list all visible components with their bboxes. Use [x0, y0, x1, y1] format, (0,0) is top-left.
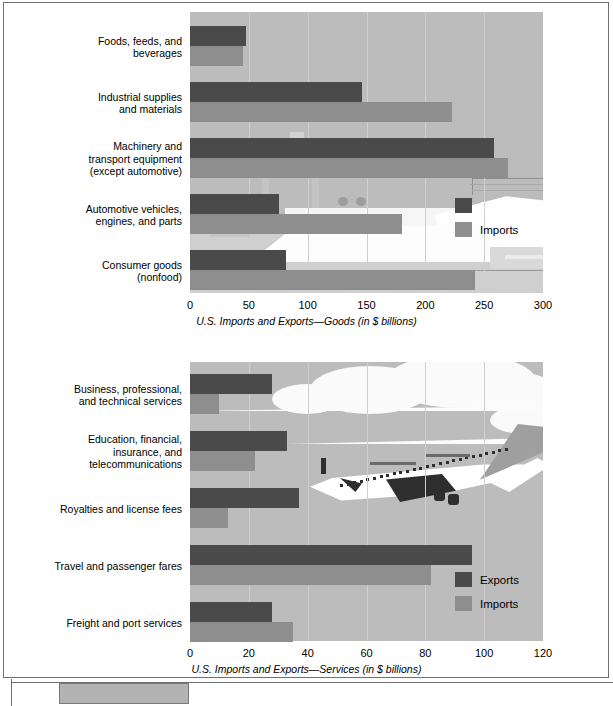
bar-imports-2: [190, 508, 228, 528]
contrail-2: [288, 438, 543, 444]
category-label: Machinery andtransport equipment(except …: [12, 140, 182, 178]
nose-shadow: [340, 478, 362, 492]
engine-2: [448, 494, 459, 505]
bar-exports-1: [190, 431, 287, 451]
cabin-window: [432, 464, 435, 467]
cabin-window: [399, 471, 402, 474]
x-tick-label: 40: [288, 647, 328, 659]
tail-fin: [480, 424, 543, 482]
x-tick-label: 80: [405, 647, 445, 659]
x-tick-label: 120: [523, 647, 563, 659]
cabin-window: [360, 480, 363, 483]
wake-1: [490, 247, 543, 269]
porthole-1: [338, 197, 348, 206]
legend-swatch-exports: [455, 572, 472, 587]
legend-item-exports: Exports: [455, 198, 519, 213]
cloud-3: [468, 372, 543, 412]
cabin-window: [439, 462, 442, 465]
cabin-window: [498, 449, 501, 452]
category-label: Freight and port services: [12, 617, 182, 630]
bar-exports-2: [190, 138, 494, 158]
category-label: Foods, feeds, andbeverages: [12, 35, 182, 60]
legend-swatch-imports: [455, 596, 472, 611]
cabin-window: [465, 456, 468, 459]
bar-imports-0: [190, 394, 219, 414]
legend-label-exports: Exports: [480, 200, 519, 212]
bar-exports-1: [190, 82, 362, 102]
livery-stripe-2: [426, 454, 470, 457]
cloud-1: [310, 366, 430, 414]
page-divider-vertical: [11, 679, 12, 706]
fuselage: [310, 462, 532, 502]
category-label: Consumer goods(nonfood): [12, 259, 182, 284]
bar-imports-4: [190, 622, 293, 642]
axis-title-goods: U.S. Imports and Exports—Goods (in $ bil…: [0, 315, 613, 327]
legend-item-imports: Imports: [455, 596, 519, 611]
bar-exports-3: [190, 545, 472, 565]
axis-title-services: U.S. Imports and Exports—Services (in $ …: [0, 663, 613, 675]
cabin-window: [406, 470, 409, 473]
legend-label-imports: Imports: [480, 224, 518, 236]
cabin-window: [459, 458, 462, 461]
cabin-window: [353, 481, 356, 484]
engine-1: [434, 490, 445, 501]
wake-2: [505, 255, 543, 259]
legend-swatch-imports: [455, 222, 472, 237]
livery-stripe-1: [370, 462, 416, 465]
x-tick-label: 100: [288, 299, 328, 311]
x-tick-label: 0: [170, 647, 210, 659]
category-label: Automotive vehicles,engines, and parts: [12, 203, 182, 228]
gridline: [367, 362, 368, 641]
bridge-rail: [472, 178, 543, 195]
cabin-window: [419, 467, 422, 470]
engine-pylon: [396, 488, 420, 495]
bar-imports-2: [190, 158, 508, 178]
cabin-window: [472, 455, 475, 458]
cabin-window: [373, 477, 376, 480]
cabin-window: [492, 451, 495, 454]
bar-imports-0: [190, 46, 243, 66]
cabin-window: [386, 474, 389, 477]
cabin-window: [380, 475, 383, 478]
cabin-window: [485, 452, 488, 455]
chart-services: Business, professional,and technical ser…: [0, 340, 613, 680]
cabin-window: [505, 448, 508, 451]
bar-imports-4: [190, 270, 475, 290]
category-label: Industrial suppliesand materials: [12, 91, 182, 116]
x-tick-label: 50: [229, 299, 269, 311]
cloud-5: [490, 406, 543, 434]
cabin-window: [479, 454, 482, 457]
bar-exports-4: [190, 250, 286, 270]
legend-services: Exports Imports: [455, 572, 519, 620]
cabin-window: [413, 468, 416, 471]
category-label: Education, financial,insurance, andtelec…: [12, 433, 182, 471]
legend-item-imports: Imports: [455, 222, 519, 237]
main-wing: [386, 474, 456, 502]
page-tab-artifact: [59, 683, 189, 704]
cloud-2: [386, 362, 536, 408]
tailplane: [488, 458, 543, 492]
rail-line-2: [472, 190, 543, 191]
cabin-window: [340, 484, 343, 487]
legend-swatch-exports: [455, 198, 472, 213]
cabin-window: [446, 461, 449, 464]
legend-label-imports: Imports: [480, 598, 518, 610]
bar-imports-3: [190, 214, 402, 234]
porthole-2: [356, 197, 366, 206]
legend-label-exports: Exports: [480, 574, 519, 586]
bar-exports-2: [190, 488, 299, 508]
category-label: Royalties and license fees: [12, 503, 182, 516]
rail-line-1: [470, 184, 543, 185]
bar-exports-0: [190, 26, 246, 46]
category-label: Business, professional,and technical ser…: [12, 383, 182, 408]
x-tick-label: 250: [464, 299, 504, 311]
bar-imports-1: [190, 451, 255, 471]
cabin-window: [452, 459, 455, 462]
cabin-window: [393, 472, 396, 475]
winglet: [321, 458, 326, 474]
x-tick-label: 0: [170, 299, 210, 311]
x-tick-label: 100: [464, 647, 504, 659]
figure-page: Foods, feeds, andbeveragesIndustrial sup…: [0, 0, 613, 706]
legend-goods: Exports Imports: [455, 198, 519, 246]
gridline: [308, 362, 309, 641]
